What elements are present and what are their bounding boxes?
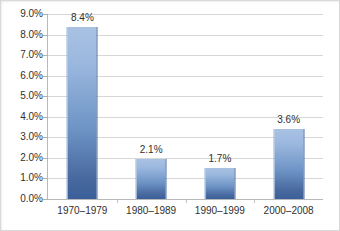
bar (67, 27, 98, 199)
y-axis-tick-mark (43, 178, 48, 179)
y-axis-tick-label: 1.0% (3, 173, 43, 183)
bar (136, 159, 167, 199)
y-axis-tick-mark (43, 117, 48, 118)
bar-data-label: 2.1% (140, 145, 163, 155)
y-axis-tick-label: 6.0% (3, 71, 43, 81)
x-axis-tick-mark (117, 199, 118, 203)
y-axis-tick-mark (43, 55, 48, 56)
y-axis-tick-label: 7.0% (3, 50, 43, 60)
bar (273, 129, 304, 199)
y-axis-tick-label: 3.0% (3, 132, 43, 142)
x-axis-tick-mark (186, 199, 187, 203)
x-axis-tick-label: 1970–1979 (48, 205, 117, 216)
x-axis: 1970–19791980–19891990–19992000–2008 (48, 201, 323, 219)
y-axis-tick-mark (43, 199, 48, 200)
y-axis-tick-label: 2.0% (3, 153, 43, 163)
x-axis-tick-label: 1990–1999 (186, 205, 255, 216)
bar-data-label: 8.4% (71, 13, 94, 23)
x-axis-tick-mark (254, 199, 255, 203)
bar-data-label: 3.6% (277, 115, 300, 125)
bar-group: 1.7% (186, 14, 255, 199)
bar-group: 3.6% (254, 14, 323, 199)
y-axis-tick-label: 9.0% (3, 9, 43, 19)
bar-chart-figure: 8.4%2.1%1.7%3.6% 0.0%1.0%2.0%3.0%4.0%5.0… (0, 0, 340, 231)
y-axis-tick-label: 5.0% (3, 91, 43, 101)
y-axis-tick-label: 4.0% (3, 112, 43, 122)
y-axis-tick-mark (43, 14, 48, 15)
x-axis-tick-label: 1980–1989 (117, 205, 186, 216)
bar-data-label: 1.7% (208, 154, 231, 164)
y-axis-tick-mark (43, 96, 48, 97)
y-axis-tick-label: 8.0% (3, 30, 43, 40)
y-axis-tick-mark (43, 35, 48, 36)
bar-group: 2.1% (117, 14, 186, 199)
bar-group: 8.4% (48, 14, 117, 199)
y-axis-tick-label: 0.0% (3, 194, 43, 204)
bar (204, 168, 235, 199)
plot-area: 8.4%2.1%1.7%3.6% (48, 14, 323, 199)
x-axis-tick-label: 2000–2008 (254, 205, 323, 216)
y-axis-tick-mark (43, 158, 48, 159)
y-axis-tick-mark (43, 76, 48, 77)
y-axis-line (47, 14, 48, 200)
y-axis-tick-mark (43, 137, 48, 138)
